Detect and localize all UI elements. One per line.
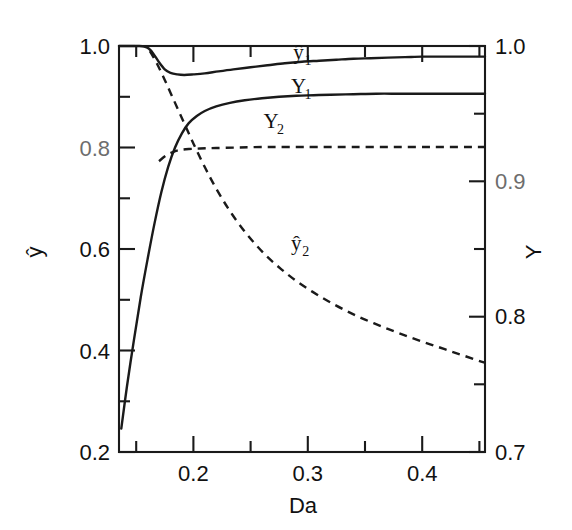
y-left-axis-title: ŷ bbox=[22, 247, 47, 258]
series-line-y-hat-2 bbox=[150, 51, 485, 363]
y-left-tick-label-4: 0.4 bbox=[79, 339, 110, 364]
y-left-tick-label-5: 0.2 bbox=[79, 440, 110, 465]
chart-figure: 1.0 0.8 0.6 0.4 0.2 1.0 0.9 0.8 0.7 0.2 … bbox=[0, 0, 572, 530]
curve-label-y-hat-2: ŷ 2 bbox=[291, 231, 309, 259]
curve-label-Y-2: Y 2 bbox=[264, 109, 285, 137]
svg-text:ŷ: ŷ bbox=[291, 231, 302, 255]
y-right-tick-label-4: 0.7 bbox=[495, 440, 526, 465]
chart-svg: 1.0 0.8 0.6 0.4 0.2 1.0 0.9 0.8 0.7 0.2 … bbox=[0, 0, 572, 530]
x-tick-label-1: 0.2 bbox=[178, 461, 209, 486]
svg-text:1: 1 bbox=[305, 87, 312, 102]
chart-series-group bbox=[119, 46, 485, 429]
curve-labels: ŷ 1 Y 1 Y 2 ŷ 2 bbox=[264, 40, 312, 259]
x-axis-title: Da bbox=[289, 493, 318, 518]
curve-label-y-hat-1: ŷ 1 bbox=[293, 40, 311, 68]
curve-label-Y-1: Y 1 bbox=[291, 74, 312, 102]
svg-text:1: 1 bbox=[305, 53, 312, 68]
y-left-tick-label-1: 1.0 bbox=[79, 34, 110, 59]
y-right-axis-title: Y bbox=[521, 244, 546, 259]
x-tick-label-3: 0.4 bbox=[407, 461, 438, 486]
y-left-tick-label-3: 0.6 bbox=[79, 237, 110, 262]
svg-text:2: 2 bbox=[277, 122, 284, 137]
y-left-tick-label-2: 0.8 bbox=[79, 136, 110, 161]
svg-text:ŷ: ŷ bbox=[293, 40, 304, 64]
series-line-Y-1 bbox=[121, 94, 485, 429]
x-tick-label-2: 0.3 bbox=[293, 461, 324, 486]
y-right-tick-label-2: 0.9 bbox=[495, 169, 526, 194]
y-right-tick-label-1: 1.0 bbox=[495, 34, 526, 59]
svg-text:2: 2 bbox=[302, 244, 309, 259]
series-line-Y-2 bbox=[159, 147, 485, 161]
y-right-tick-label-3: 0.8 bbox=[495, 304, 526, 329]
y-right-axis-ticks bbox=[469, 46, 485, 452]
